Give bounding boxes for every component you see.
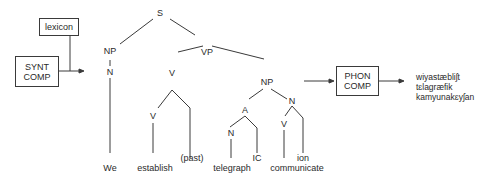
- phonetic-output: wiyastæbliʃt tɛlagræfik kamyunakɛyʃan: [416, 72, 474, 102]
- phonetic-line-1: wiyastæbliʃt: [416, 72, 474, 82]
- leaf-establish: establish: [137, 163, 173, 173]
- leaf-ic: IC: [253, 153, 262, 163]
- node-np-object: NP: [261, 77, 274, 87]
- synt-comp-box: SYNT COMP: [15, 56, 59, 87]
- node-v-in-n: V: [281, 119, 287, 129]
- phon-comp-label-line2: COMP: [344, 81, 371, 91]
- node-vp: VP: [201, 47, 213, 57]
- leaf-telegraph: telegraph: [213, 163, 251, 173]
- node-n-subject: N: [107, 67, 114, 77]
- node-a: A: [242, 105, 248, 115]
- phonetic-line-2: tɛlagræfik: [416, 82, 474, 92]
- synt-comp-label-line1: SYNT: [25, 62, 49, 72]
- phon-comp-label-line1: PHON: [344, 71, 370, 81]
- node-np-subject: NP: [104, 46, 117, 56]
- leaf-we: We: [103, 163, 116, 173]
- leaf-ion: ion: [297, 153, 309, 163]
- node-n-in-a: N: [228, 128, 235, 138]
- node-s: S: [157, 8, 163, 18]
- lexicon-label: lexicon: [45, 22, 73, 32]
- phon-comp-box: PHON COMP: [336, 66, 379, 96]
- phonetic-line-3: kamyunakɛyʃan: [416, 92, 474, 102]
- node-n-object: N: [289, 96, 296, 106]
- leaf-past: (past): [180, 153, 203, 163]
- node-v-main: V: [169, 68, 175, 78]
- lexicon-box: lexicon: [39, 18, 79, 36]
- synt-comp-label-line2: COMP: [24, 72, 51, 82]
- node-v-inner: V: [150, 111, 156, 121]
- leaf-communicate: communicate: [270, 163, 324, 173]
